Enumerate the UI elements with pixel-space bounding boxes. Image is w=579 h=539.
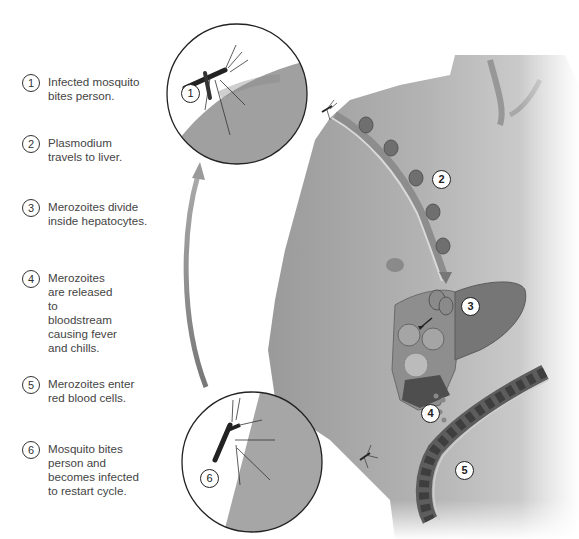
callout-2: 2 xyxy=(432,170,451,189)
step-3: 3 Merozoites divide inside hepatocytes. xyxy=(22,200,163,228)
step-4: 4 Merozoites are released to bloodstream… xyxy=(22,271,123,355)
step-1: 1 Infected mosquito bites person. xyxy=(22,75,158,103)
step-text: Merozoites enter red blood cells. xyxy=(48,377,153,405)
step-number: 1 xyxy=(22,74,40,92)
callout-5: 5 xyxy=(455,461,474,480)
cycle-arrow xyxy=(186,162,206,387)
step-2: 2 Plasmodium travels to liver. xyxy=(22,136,143,164)
step-text: Merozoites are released to bloodstream c… xyxy=(48,271,123,355)
step-text: Infected mosquito bites person. xyxy=(48,75,158,103)
callout-1: 1 xyxy=(181,84,200,103)
callout-6: 6 xyxy=(200,469,219,488)
step-5: 5 Merozoites enter red blood cells. xyxy=(22,377,153,405)
step-text: Mosquito bites person and becomes infect… xyxy=(48,442,143,498)
step-text: Plasmodium travels to liver. xyxy=(48,136,143,164)
step-legend: 1 Infected mosquito bites person. 2 Plas… xyxy=(0,0,180,539)
step-number: 5 xyxy=(22,376,40,394)
callout-4: 4 xyxy=(421,404,440,423)
step-number: 6 xyxy=(22,441,40,459)
step-number: 4 xyxy=(22,270,40,288)
step-6: 6 Mosquito bites person and becomes infe… xyxy=(22,442,143,498)
callout-3: 3 xyxy=(461,297,480,316)
step-number: 3 xyxy=(22,199,40,217)
step-number: 2 xyxy=(22,135,40,153)
step-text: Merozoites divide inside hepatocytes. xyxy=(48,200,163,228)
